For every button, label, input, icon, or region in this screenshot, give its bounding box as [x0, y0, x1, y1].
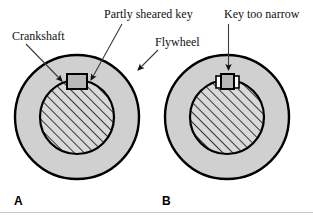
crankshaft-a	[40, 80, 114, 154]
figure-root: Crankshaft Partly sheared key Flywheel K…	[0, 0, 313, 215]
label-flywheel: Flywheel	[155, 36, 200, 48]
panel-label-b: B	[162, 195, 171, 207]
flywheel-leader-line	[138, 50, 158, 70]
partly-sheared-key-a	[67, 74, 87, 89]
label-key-too-narrow: Key too narrow	[224, 8, 299, 20]
crankshaft-b	[190, 80, 264, 154]
label-crankshaft: Crankshaft	[12, 30, 65, 42]
panel-a	[15, 55, 139, 179]
panel-b	[165, 55, 289, 179]
panel-label-a: A	[14, 195, 23, 207]
narrow-key-b	[221, 74, 234, 89]
label-partly-sheared-key: Partly sheared key	[104, 8, 193, 20]
